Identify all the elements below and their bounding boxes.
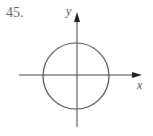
y-axis-arrow-icon xyxy=(74,12,80,22)
circle-curve xyxy=(43,43,109,109)
graph-figure xyxy=(0,0,153,136)
x-axis-arrow-icon xyxy=(132,72,142,78)
